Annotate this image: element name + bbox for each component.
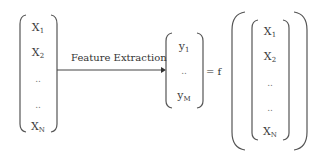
item-base: X (264, 25, 272, 38)
input-item-x2: X2 (23, 47, 53, 62)
argument-item-ellipsis-2: .. (255, 102, 285, 114)
item-subscript: 2 (272, 56, 276, 64)
item-subscript: M (184, 95, 191, 103)
argument-item-x2: X2 (255, 51, 285, 66)
arrow-head-icon (161, 67, 166, 73)
item-base: X (263, 125, 271, 138)
feature-extraction-label: Feature Extraction (71, 52, 167, 63)
feature-extraction-diagram: X1 X2 .. .. XN Feature Extraction y1 .. … (0, 0, 326, 159)
item-subscript: N (271, 131, 277, 139)
function-left-paren (232, 12, 245, 150)
input-item-x1: X1 (23, 22, 53, 37)
item-subscript: 1 (185, 46, 189, 54)
item-subscript: 2 (40, 52, 44, 60)
argument-item-x1: X1 (255, 26, 285, 41)
item-subscript: 1 (272, 31, 276, 39)
argument-item-ellipsis-1: .. (255, 77, 285, 89)
output-item-ym: yM (169, 90, 199, 105)
item-base: X (32, 46, 40, 59)
item-base: .. (35, 100, 41, 110)
input-item-ellipsis-1: .. (23, 73, 53, 85)
output-item-ellipsis: .. (169, 65, 199, 77)
output-item-y1: y1 (169, 41, 199, 56)
item-base: X (264, 50, 272, 63)
item-base: .. (267, 103, 273, 113)
item-base: .. (267, 78, 273, 88)
equals-f-label: = f (206, 66, 221, 77)
item-base: X (32, 21, 40, 34)
item-subscript: 1 (40, 27, 44, 35)
item-base: .. (181, 66, 187, 76)
item-base: X (31, 120, 39, 133)
function-right-paren (294, 12, 307, 150)
input-item-xn: XN (23, 121, 53, 136)
input-item-ellipsis-2: .. (23, 99, 53, 111)
item-subscript: N (39, 126, 45, 134)
argument-item-xn: XN (255, 126, 285, 141)
item-base: .. (35, 74, 41, 84)
